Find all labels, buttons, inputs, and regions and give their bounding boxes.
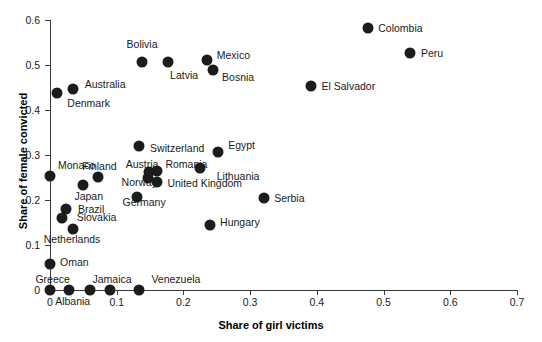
y-axis-tick: [45, 200, 50, 201]
y-axis-tick: [45, 245, 50, 246]
x-axis-tick-label: 0.7: [510, 296, 525, 308]
data-point-label: Netherlands: [44, 233, 101, 245]
data-point-label: Peru: [421, 47, 443, 59]
data-point-label: Hungary: [220, 216, 260, 228]
scatter-plot: 00.10.20.30.40.50.60.700.10.20.30.40.50.…: [0, 0, 542, 342]
data-point[interactable]: [195, 163, 206, 174]
data-point[interactable]: [45, 285, 56, 296]
data-point-label: Denmark: [67, 97, 110, 109]
data-point-label: Jamaica: [92, 273, 131, 285]
data-point[interactable]: [45, 171, 56, 182]
y-axis-title: Share of female convicted: [17, 81, 29, 241]
y-axis-tick: [45, 110, 50, 111]
y-axis-tick-label: 0.6: [6, 14, 40, 26]
data-point-label: Colombia: [378, 22, 422, 34]
data-point-label: Albania: [55, 295, 90, 307]
x-axis-tick: [117, 290, 118, 295]
x-axis-tick-label: 0.6: [443, 296, 458, 308]
data-point-label: Bolivia: [127, 38, 158, 50]
data-point-label: Finland: [82, 160, 116, 172]
x-axis-tick: [384, 290, 385, 295]
x-axis-tick-label: 0.5: [376, 296, 391, 308]
y-axis-tick: [45, 65, 50, 66]
data-point-label: Mexico: [217, 49, 250, 61]
data-point[interactable]: [105, 285, 116, 296]
x-axis-line: [50, 290, 517, 291]
y-axis-line: [50, 20, 51, 290]
data-point[interactable]: [205, 219, 216, 230]
data-point-label: Switzerland: [150, 142, 204, 154]
y-axis-tick-label: 0.5: [6, 59, 40, 71]
data-point[interactable]: [213, 146, 224, 157]
data-point-label: Egypt: [228, 139, 255, 151]
data-point[interactable]: [405, 47, 416, 58]
data-point[interactable]: [137, 56, 148, 67]
y-axis-tick: [45, 20, 50, 21]
data-point[interactable]: [305, 81, 316, 92]
data-point-label: Germany: [122, 196, 165, 208]
data-point-label: Venezuela: [151, 273, 200, 285]
data-point[interactable]: [163, 56, 174, 67]
data-point[interactable]: [57, 213, 68, 224]
data-point-label: Japan: [74, 190, 103, 202]
data-point-label: Slovakia: [77, 211, 117, 223]
x-axis-tick: [317, 290, 318, 295]
x-axis-tick: [183, 290, 184, 295]
x-axis-tick-label: 0.4: [310, 296, 325, 308]
data-point[interactable]: [207, 64, 218, 75]
data-point-label: Greece: [35, 273, 69, 285]
y-axis-tick: [45, 155, 50, 156]
data-point[interactable]: [133, 141, 144, 152]
x-axis-tick: [450, 290, 451, 295]
data-point[interactable]: [67, 83, 78, 94]
x-axis-tick: [250, 290, 251, 295]
data-point[interactable]: [152, 177, 163, 188]
data-point[interactable]: [51, 87, 62, 98]
data-point-label: Australia: [85, 78, 126, 90]
data-point[interactable]: [45, 258, 56, 269]
data-point-label: Latvia: [170, 69, 198, 81]
data-point[interactable]: [363, 23, 374, 34]
x-axis-tick-label: 0.3: [243, 296, 258, 308]
data-point[interactable]: [93, 172, 104, 183]
data-point[interactable]: [259, 192, 270, 203]
x-axis-tick: [517, 290, 518, 295]
data-point-label: Oman: [60, 256, 89, 268]
x-axis-tick-label: 0.2: [176, 296, 191, 308]
data-point-label: United Kingdom: [167, 177, 242, 189]
data-point[interactable]: [85, 285, 96, 296]
data-point-label: El Salvador: [322, 80, 376, 92]
x-axis-tick-label: 0: [47, 296, 53, 308]
data-point[interactable]: [133, 285, 144, 296]
data-point-label: Bosnia: [222, 71, 254, 83]
x-axis-tick-label: 0.1: [109, 296, 124, 308]
y-axis-tick-label: 0: [6, 284, 40, 296]
data-point-label: Serbia: [274, 192, 304, 204]
x-axis-title: Share of girl victims: [0, 319, 542, 331]
